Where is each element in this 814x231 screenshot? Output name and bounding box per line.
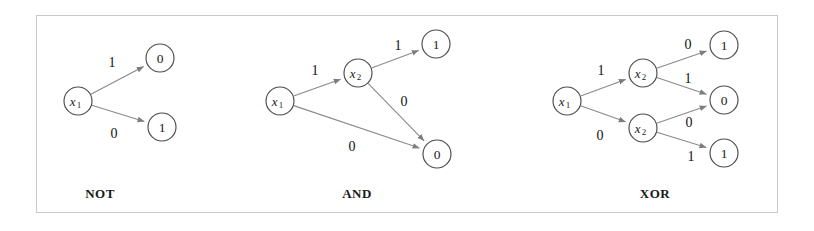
caption-and: AND <box>342 186 372 201</box>
captions-layer: NOTANDXOR <box>85 186 670 201</box>
xor-edge-x2l-to-1-label: 1 <box>688 149 695 164</box>
and-terminal-0-text: 0 <box>434 147 441 162</box>
not-edge-x1-to-0 <box>91 67 144 95</box>
and-edge-x2-to-0-label: 0 <box>401 94 408 109</box>
and-root-x1-subscript: 1 <box>279 100 284 110</box>
xor-edge-x2l-to-0 <box>657 106 707 123</box>
and-node-x2: x2 <box>344 59 372 87</box>
xor-terminal-1-top: 1 <box>710 31 738 59</box>
and-edge-x2-to-1 <box>372 50 419 67</box>
not-edge-x1-to-0-label: 1 <box>109 55 116 70</box>
xor-edge-x2l-to-0-label: 0 <box>686 115 693 130</box>
edges-layer <box>91 50 707 148</box>
not-edge-x1-to-1 <box>92 105 144 121</box>
xor-edge-x1-to-x2-lower-label: 0 <box>597 128 604 143</box>
bdd-figure: x101x1x210x1x2x2101 101010100101 NOTANDX… <box>0 0 814 231</box>
xor-root-x1-subscript: 1 <box>566 100 571 110</box>
and-edge-x1-to-0 <box>294 106 420 148</box>
xor-edge-x2l-to-1 <box>657 132 706 147</box>
xor-terminal-1-top-text: 1 <box>721 38 728 53</box>
and-edge-x1-to-0-label: 0 <box>349 139 356 154</box>
xor-terminal-0-text: 0 <box>721 93 728 108</box>
xor-edge-x2u-to-1-label: 0 <box>685 37 692 52</box>
and-node-x2-subscript: 2 <box>357 72 362 82</box>
xor-edge-x2u-to-0-label: 1 <box>685 71 692 86</box>
xor-terminal-1-bot-text: 1 <box>721 146 728 161</box>
xor-edge-x2u-to-0 <box>657 78 707 95</box>
edge-labels-layer: 101010100101 <box>109 37 695 164</box>
not-terminal-0-text: 0 <box>157 51 164 66</box>
xor-terminal-1-bot: 1 <box>710 139 738 167</box>
xor-node-x2-upper-subscript: 2 <box>642 72 647 82</box>
xor-node-x2-lower: x2 <box>629 114 657 142</box>
xor-edge-x1-to-x2-upper-label: 1 <box>598 63 605 78</box>
xor-node-x2-upper: x2 <box>629 59 657 87</box>
not-root-x1: x1 <box>64 87 92 115</box>
xor-edge-x2u-to-1 <box>657 51 707 68</box>
xor-edge-x1-to-x2-upper <box>581 79 626 96</box>
and-edge-x1-to-x2-label: 1 <box>312 63 319 78</box>
not-terminal-1-text: 1 <box>159 120 166 135</box>
and-terminal-1: 1 <box>422 30 450 58</box>
xor-terminal-0: 0 <box>710 86 738 114</box>
xor-node-x2-lower-subscript: 2 <box>642 127 647 137</box>
bdd-diagram-canvas: x101x1x210x1x2x2101 101010100101 NOTANDX… <box>0 0 814 231</box>
and-edge-x2-to-0 <box>368 83 424 140</box>
not-terminal-1: 1 <box>148 113 176 141</box>
and-terminal-1-text: 1 <box>433 37 440 52</box>
not-edge-x1-to-1-label: 0 <box>111 126 118 141</box>
and-root-x1: x1 <box>266 87 294 115</box>
and-edge-x1-to-x2 <box>294 79 341 96</box>
and-edge-x2-to-1-label: 1 <box>395 38 402 53</box>
xor-root-x1: x1 <box>553 87 581 115</box>
xor-edge-x1-to-x2-lower <box>581 106 626 122</box>
caption-xor: XOR <box>640 186 671 201</box>
not-root-x1-subscript: 1 <box>77 100 82 110</box>
not-terminal-0: 0 <box>146 44 174 72</box>
caption-not: NOT <box>85 186 115 201</box>
and-terminal-0: 0 <box>423 140 451 168</box>
